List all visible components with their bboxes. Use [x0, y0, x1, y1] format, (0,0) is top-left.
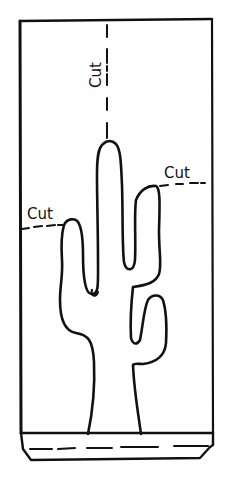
right-cut-label: Cut	[164, 164, 190, 182]
top-cut-label: Cut	[87, 62, 105, 88]
cactus-cut-diagram: Cut Cut Cut	[0, 0, 229, 491]
left-cut-label: Cut	[27, 205, 53, 223]
cut-line-right-arm	[160, 183, 205, 186]
cut-line-left-arm	[22, 225, 63, 229]
base-fold-line	[30, 446, 208, 449]
cactus-outline	[60, 141, 166, 434]
